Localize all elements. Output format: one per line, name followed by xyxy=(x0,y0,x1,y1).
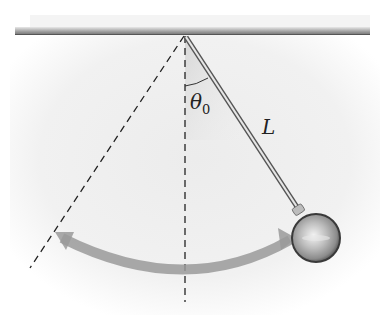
theta-symbol: θ xyxy=(190,90,202,114)
theta-subscript: 0 xyxy=(202,102,210,117)
bob-highlight xyxy=(302,235,330,241)
ceiling-shadow xyxy=(30,15,370,29)
angle-label: θ0 xyxy=(190,90,210,117)
pendulum-diagram: θ0 L xyxy=(0,0,386,315)
diagram-canvas xyxy=(0,0,386,315)
length-label: L xyxy=(262,115,275,139)
ceiling-bar xyxy=(15,27,370,35)
